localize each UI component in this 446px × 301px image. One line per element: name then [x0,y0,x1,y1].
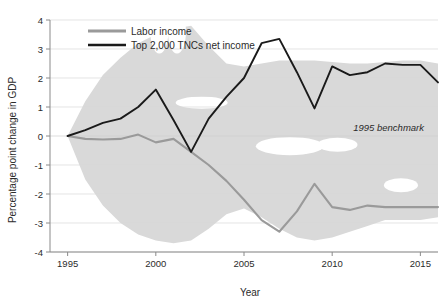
y-tick-label--1: -1 [35,160,43,171]
band-gap-5 [384,178,418,192]
line-chart: -4-3-2-10123419952000200520102015 Percen… [0,0,446,301]
y-tick-label-1: 1 [38,102,43,113]
x-tick-label-2010: 2010 [322,258,343,269]
y-tick-label-2: 2 [38,73,43,84]
x-axis-title: Year [240,287,261,298]
x-tick-label-2000: 2000 [145,258,166,269]
y-tick-label--3: -3 [35,218,43,229]
y-tick-label-0: 0 [38,131,43,142]
chart-container: -4-3-2-10123419952000200520102015 Percen… [0,0,446,301]
x-tick-label-1995: 1995 [57,258,78,269]
annotation-benchmark: 1995 benchmark [353,122,425,133]
y-tick-label-3: 3 [38,44,43,55]
x-tick-label-2015: 2015 [410,258,431,269]
y-tick-label--2: -2 [35,189,43,200]
x-tick-label-2005: 2005 [233,258,254,269]
y-tick-label-4: 4 [38,15,43,26]
band-gap-3 [256,137,324,155]
band-gap-4 [317,138,357,152]
y-axis-title: Percentage point change in GDP [7,77,18,224]
y-tick-label--4: -4 [35,247,43,258]
legend-label-1: Top 2,000 TNCs net income [131,40,255,51]
legend-label-0: Labor income [131,26,192,37]
chart-annotations: 1995 benchmark [353,122,425,133]
